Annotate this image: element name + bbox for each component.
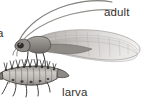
cropped-label-fragment: a xyxy=(0,27,3,39)
label-adult: adult xyxy=(104,6,129,18)
larva-insect xyxy=(0,59,69,97)
label-larva: larva xyxy=(62,86,87,98)
insect-life-stages-figure: a adult larva xyxy=(0,0,148,106)
larva-tail-tip xyxy=(57,69,69,78)
adult-leg-front xyxy=(25,51,28,66)
